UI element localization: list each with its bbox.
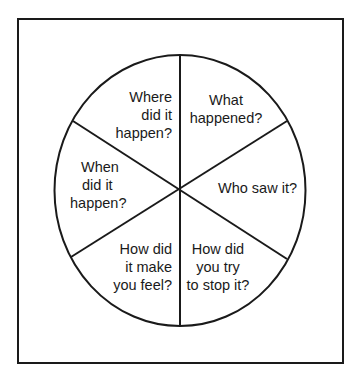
segment-feel-line-1: How did — [113, 240, 172, 258]
segment-feel-line-2: it make — [113, 258, 172, 276]
segment-what-line-1: What — [186, 91, 266, 109]
segment-feel: How did it make you feel? — [113, 240, 172, 294]
segment-where-line-1: Where — [116, 88, 172, 106]
segment-when-line-2: did it — [70, 176, 126, 194]
segment-what: What happened? — [186, 91, 266, 127]
segment-when-line-1: When — [70, 158, 126, 176]
segment-stop-line-3: to stop it? — [185, 276, 251, 294]
segment-where: Where did it happen? — [116, 88, 172, 142]
question-wheel — [0, 0, 362, 379]
segment-when: When did it happen? — [70, 158, 126, 212]
segment-stop-line-2: you try — [185, 258, 251, 276]
segment-who: Who saw it? — [218, 179, 297, 197]
segment-what-line-2: happened? — [186, 109, 266, 127]
segment-stop-line-1: How did — [185, 240, 251, 258]
segment-who-line-1: Who saw it? — [218, 179, 297, 197]
segment-where-line-3: happen? — [116, 124, 172, 142]
segment-feel-line-3: you feel? — [113, 276, 172, 294]
segment-stop: How did you try to stop it? — [185, 240, 251, 294]
segment-where-line-2: did it — [116, 106, 172, 124]
segment-when-line-3: happen? — [70, 194, 126, 212]
